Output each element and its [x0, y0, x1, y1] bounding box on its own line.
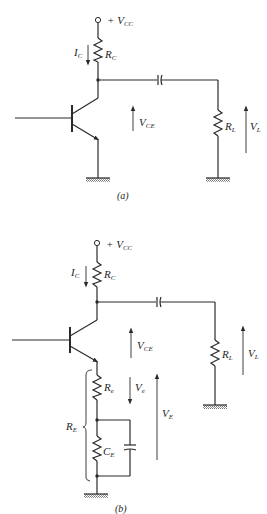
ground-rl-icon: [206, 178, 230, 182]
vce-label: VCE: [137, 339, 153, 353]
vce-label: VCE: [139, 116, 155, 130]
vcc-label: + VCC: [106, 238, 133, 252]
npn-transistor-icon: [15, 80, 98, 178]
vl-label: VL: [248, 347, 259, 361]
npn-transistor-icon: [12, 302, 97, 375]
rl-resistor-icon: [214, 110, 222, 136]
rc-label: RC: [103, 268, 116, 282]
figure-a-caption: (a): [117, 190, 129, 202]
rl-resistor-icon: [211, 340, 219, 366]
re-total-brace-icon: [83, 370, 92, 481]
figure-b-caption: (b): [115, 503, 127, 514]
rl-label: RL: [221, 348, 233, 362]
ground-emitter-icon: [86, 178, 110, 182]
ve-total-label: VE: [162, 407, 174, 421]
vl-label: VL: [250, 120, 261, 134]
vcc-terminal-icon: [94, 240, 99, 245]
ce-label: CE: [103, 445, 115, 459]
re-resistor-icon: [93, 375, 101, 400]
ic-label: IC: [70, 266, 80, 280]
circuit-diagram: + VCC RC IC RL VL: [0, 0, 267, 514]
ce-resistor-icon: [93, 436, 101, 461]
figure-b: + VCC RC IC RL VL: [12, 238, 259, 514]
re-total-label: RE: [65, 420, 78, 434]
figure-a: + VCC RC IC RL VL: [15, 14, 261, 202]
rc-resistor-icon: [93, 262, 101, 287]
rc-label: RC: [104, 48, 117, 62]
rc-resistor-icon: [94, 38, 102, 62]
re-small-label: Re: [103, 381, 114, 395]
vcc-terminal-icon: [95, 17, 100, 22]
rl-label: RL: [224, 120, 236, 134]
ic-label: IC: [73, 46, 83, 60]
vcc-label: + VCC: [107, 14, 134, 28]
ve-small-label: Ve: [135, 381, 145, 395]
